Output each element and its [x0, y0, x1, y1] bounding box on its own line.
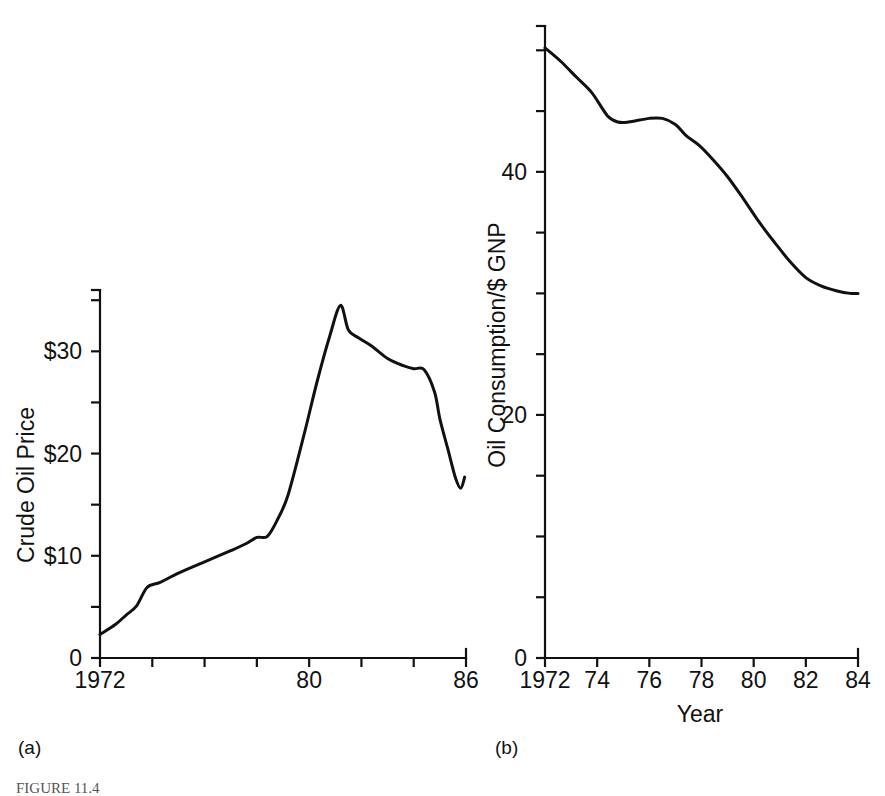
x-tick-label: 80 — [296, 667, 322, 693]
y-tick-label: 0 — [514, 645, 527, 671]
x-tick-label: 1972 — [519, 667, 570, 693]
figure-caption: FIGURE 11.4 — [16, 780, 100, 796]
panel-a-y-axis-title: Crude Oil Price — [13, 407, 39, 563]
panel-a-axes — [92, 290, 466, 658]
panel-b-x-axis-title: Year — [677, 701, 724, 727]
chart-panel-b: 1972747678808284 02040 Oil Consumption/$… — [484, 26, 871, 727]
x-tick-label: 78 — [689, 667, 715, 693]
figure-container: 19728086 0$10$20$30 Crude Oil Price 1972… — [0, 0, 885, 796]
panel-b-label: (b) — [495, 737, 518, 758]
x-tick-label: 84 — [845, 667, 871, 693]
x-tick-label: 82 — [793, 667, 819, 693]
x-tick-label: 76 — [637, 667, 663, 693]
x-tick-label: 74 — [584, 667, 610, 693]
panel-b-axes — [537, 26, 858, 658]
y-tick-label: $20 — [44, 441, 82, 467]
chart-panel-a: 19728086 0$10$20$30 Crude Oil Price — [13, 290, 479, 693]
y-tick-label: $10 — [44, 543, 82, 569]
panel-a-x-tick-labels: 19728086 — [74, 667, 478, 693]
x-tick-label: 86 — [453, 667, 479, 693]
y-tick-label: $30 — [44, 338, 82, 364]
panel-a-y-tick-labels: 0$10$20$30 — [44, 338, 82, 671]
panel-a-data-curve — [100, 305, 465, 634]
panel-b-y-axis-title: Oil Consumption/$ GNP — [484, 222, 510, 467]
panel-b-x-tick-labels: 1972747678808284 — [519, 667, 871, 693]
y-tick-label: 40 — [501, 159, 527, 185]
y-tick-label: 0 — [69, 645, 82, 671]
x-tick-label: 1972 — [74, 667, 125, 693]
panel-a-label: (a) — [18, 737, 41, 758]
panel-b-data-curve — [545, 48, 858, 294]
figure-svg: 19728086 0$10$20$30 Crude Oil Price 1972… — [0, 0, 885, 796]
x-tick-label: 80 — [741, 667, 767, 693]
panel-a-ticks — [91, 300, 466, 667]
